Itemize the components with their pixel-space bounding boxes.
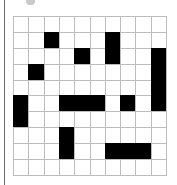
grid-cell-r1-c9[interactable] <box>151 32 166 48</box>
grid-cell-r5-c9[interactable] <box>151 95 166 111</box>
grid-cell-r0-c3[interactable] <box>59 16 74 32</box>
grid-cell-r4-c4[interactable] <box>74 80 89 96</box>
grid-cell-r9-c4[interactable] <box>74 159 89 175</box>
grid-cell-r9-c8[interactable] <box>135 159 150 175</box>
grid-cell-r5-c7[interactable] <box>120 95 135 111</box>
grid-cell-r5-c4[interactable] <box>74 95 89 111</box>
grid-cell-r1-c1[interactable] <box>28 32 43 48</box>
grid-cell-r0-c2[interactable] <box>44 16 59 32</box>
grid-cell-r4-c1[interactable] <box>28 80 43 96</box>
grid-cell-r2-c2[interactable] <box>44 48 59 64</box>
grid-cell-r0-c1[interactable] <box>28 16 43 32</box>
grid-cell-r8-c2[interactable] <box>44 143 59 159</box>
grid-cell-r3-c1[interactable] <box>28 64 43 80</box>
grid-cell-r5-c0[interactable] <box>13 95 28 111</box>
grid-cell-r9-c1[interactable] <box>28 159 43 175</box>
grid-cell-r2-c4[interactable] <box>74 48 89 64</box>
grid-cell-r3-c2[interactable] <box>44 64 59 80</box>
grid-cell-r6-c5[interactable] <box>90 111 105 127</box>
grid-cell-r7-c2[interactable] <box>44 127 59 143</box>
grid-cell-r1-c2[interactable] <box>44 32 59 48</box>
grid-cell-r1-c7[interactable] <box>120 32 135 48</box>
grid-cell-r6-c0[interactable] <box>13 111 28 127</box>
grid-cell-r3-c4[interactable] <box>74 64 89 80</box>
grid-cell-r7-c8[interactable] <box>135 127 150 143</box>
grid-cell-r5-c8[interactable] <box>135 95 150 111</box>
grid-cell-r3-c5[interactable] <box>90 64 105 80</box>
grid-cell-r8-c3[interactable] <box>59 143 74 159</box>
grid-cell-r2-c8[interactable] <box>135 48 150 64</box>
grid-cell-r9-c7[interactable] <box>120 159 135 175</box>
grid-cell-r0-c8[interactable] <box>135 16 150 32</box>
grid-cell-r9-c9[interactable] <box>151 159 166 175</box>
grid-cell-r9-c0[interactable] <box>13 159 28 175</box>
grid-cell-r7-c4[interactable] <box>74 127 89 143</box>
grid-cell-r0-c7[interactable] <box>120 16 135 32</box>
grid-cell-r8-c8[interactable] <box>135 143 150 159</box>
grid-cell-r5-c5[interactable] <box>90 95 105 111</box>
grid-cell-r6-c3[interactable] <box>59 111 74 127</box>
grid-cell-r9-c5[interactable] <box>90 159 105 175</box>
grid-cell-r2-c7[interactable] <box>120 48 135 64</box>
puzzle-grid[interactable] <box>13 16 167 176</box>
grid-cell-r6-c7[interactable] <box>120 111 135 127</box>
grid-cell-r8-c6[interactable] <box>105 143 120 159</box>
grid-cell-r6-c2[interactable] <box>44 111 59 127</box>
grid-cell-r8-c7[interactable] <box>120 143 135 159</box>
grid-cell-r4-c6[interactable] <box>105 80 120 96</box>
grid-cell-r3-c6[interactable] <box>105 64 120 80</box>
grid-cell-r1-c5[interactable] <box>90 32 105 48</box>
grid-cell-r8-c9[interactable] <box>151 143 166 159</box>
grid-cell-r1-c3[interactable] <box>59 32 74 48</box>
grid-cell-r3-c8[interactable] <box>135 64 150 80</box>
grid-cell-r2-c6[interactable] <box>105 48 120 64</box>
grid-cell-r0-c9[interactable] <box>151 16 166 32</box>
grid-cell-r4-c5[interactable] <box>90 80 105 96</box>
grid-cell-r2-c0[interactable] <box>13 48 28 64</box>
grid-cell-r7-c3[interactable] <box>59 127 74 143</box>
grid-cell-r7-c5[interactable] <box>90 127 105 143</box>
grid-cell-r8-c4[interactable] <box>74 143 89 159</box>
grid-cell-r0-c6[interactable] <box>105 16 120 32</box>
grid-cell-r3-c3[interactable] <box>59 64 74 80</box>
grid-cell-r4-c7[interactable] <box>120 80 135 96</box>
grid-cell-r4-c9[interactable] <box>151 80 166 96</box>
grid-cell-r2-c5[interactable] <box>90 48 105 64</box>
grid-cell-r7-c6[interactable] <box>105 127 120 143</box>
grid-cell-r3-c9[interactable] <box>151 64 166 80</box>
grid-cell-r8-c5[interactable] <box>90 143 105 159</box>
grid-cell-r4-c3[interactable] <box>59 80 74 96</box>
grid-cell-r2-c9[interactable] <box>151 48 166 64</box>
grid-cell-r7-c9[interactable] <box>151 127 166 143</box>
grid-cell-r9-c3[interactable] <box>59 159 74 175</box>
grid-cell-r2-c1[interactable] <box>28 48 43 64</box>
grid-cell-r5-c2[interactable] <box>44 95 59 111</box>
grid-cell-r1-c8[interactable] <box>135 32 150 48</box>
grid-cell-r1-c4[interactable] <box>74 32 89 48</box>
grid-cell-r8-c0[interactable] <box>13 143 28 159</box>
grid-cell-r6-c1[interactable] <box>28 111 43 127</box>
grid-cell-r0-c4[interactable] <box>74 16 89 32</box>
grid-cell-r3-c7[interactable] <box>120 64 135 80</box>
grid-cell-r7-c0[interactable] <box>13 127 28 143</box>
grid-cell-r8-c1[interactable] <box>28 143 43 159</box>
grid-cell-r2-c3[interactable] <box>59 48 74 64</box>
grid-cell-r6-c9[interactable] <box>151 111 166 127</box>
grid-cell-r6-c8[interactable] <box>135 111 150 127</box>
grid-cell-r3-c0[interactable] <box>13 64 28 80</box>
grid-cell-r5-c6[interactable] <box>105 95 120 111</box>
grid-cell-r6-c4[interactable] <box>74 111 89 127</box>
grid-cell-r1-c6[interactable] <box>105 32 120 48</box>
grid-cell-r4-c0[interactable] <box>13 80 28 96</box>
grid-cell-r0-c5[interactable] <box>90 16 105 32</box>
grid-cell-r4-c2[interactable] <box>44 80 59 96</box>
grid-cell-r0-c0[interactable] <box>13 16 28 32</box>
grid-cell-r1-c0[interactable] <box>13 32 28 48</box>
grid-cell-r6-c6[interactable] <box>105 111 120 127</box>
grid-cell-r5-c3[interactable] <box>59 95 74 111</box>
grid-cell-r9-c6[interactable] <box>105 159 120 175</box>
grid-cell-r7-c7[interactable] <box>120 127 135 143</box>
grid-cell-r9-c2[interactable] <box>44 159 59 175</box>
grid-cell-r7-c1[interactable] <box>28 127 43 143</box>
grid-cell-r5-c1[interactable] <box>28 95 43 111</box>
